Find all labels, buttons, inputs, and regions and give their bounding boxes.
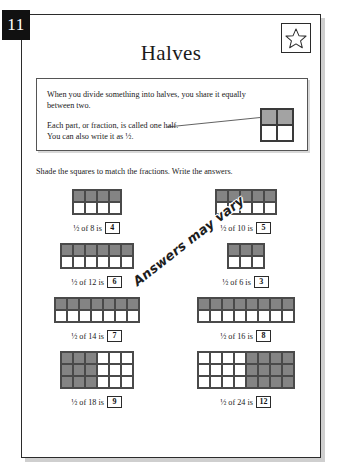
grid-cell[interactable] — [252, 190, 264, 202]
grid-cell[interactable] — [246, 298, 258, 310]
grid-cell[interactable] — [240, 244, 252, 256]
grid-cell[interactable] — [258, 376, 270, 388]
grid-cell[interactable] — [258, 352, 270, 364]
grid-cell[interactable] — [61, 352, 73, 364]
grid-cell[interactable] — [234, 298, 246, 310]
grid-cell[interactable] — [127, 310, 139, 322]
grid-cell[interactable] — [121, 244, 133, 256]
grid-cell[interactable] — [246, 364, 258, 376]
grid-cell[interactable] — [234, 310, 246, 322]
grid-cell[interactable] — [91, 310, 103, 322]
grid-cell[interactable] — [85, 376, 97, 388]
grid-cell[interactable] — [252, 202, 264, 214]
grid-cell[interactable] — [103, 298, 115, 310]
grid-cell[interactable] — [97, 202, 109, 214]
grid-cell[interactable] — [246, 352, 258, 364]
grid-cell[interactable] — [115, 298, 127, 310]
grid-cell[interactable] — [121, 352, 133, 364]
grid-cell[interactable] — [73, 376, 85, 388]
grid-cell[interactable] — [55, 298, 67, 310]
grid-cell[interactable] — [282, 310, 294, 322]
grid-cell[interactable] — [109, 202, 121, 214]
grid-cell[interactable] — [67, 298, 79, 310]
grid-cell[interactable] — [252, 244, 264, 256]
grid-cell[interactable] — [109, 244, 121, 256]
grid-cell[interactable] — [234, 352, 246, 364]
grid-cell[interactable] — [97, 190, 109, 202]
grid-cell[interactable] — [73, 352, 85, 364]
grid-cell[interactable] — [270, 298, 282, 310]
grid-cell[interactable] — [73, 256, 85, 268]
grid-cell[interactable] — [109, 256, 121, 268]
grid-cell[interactable] — [121, 256, 133, 268]
grid-cell[interactable] — [109, 190, 121, 202]
grid-cell[interactable] — [210, 352, 222, 364]
grid-cell[interactable] — [61, 376, 73, 388]
grid-cell[interactable] — [270, 376, 282, 388]
grid-cell[interactable] — [264, 190, 276, 202]
grid-cell[interactable] — [61, 364, 73, 376]
grid-cell[interactable] — [240, 256, 252, 268]
grid-cell[interactable] — [198, 298, 210, 310]
answer-box[interactable]: 7 — [107, 330, 122, 342]
grid-cell[interactable] — [85, 190, 97, 202]
shading-grid[interactable] — [197, 297, 295, 323]
grid-cell[interactable] — [103, 310, 115, 322]
shading-grid[interactable] — [72, 189, 122, 215]
grid-cell[interactable] — [91, 298, 103, 310]
grid-cell[interactable] — [67, 310, 79, 322]
answer-box[interactable]: 3 — [254, 276, 269, 288]
grid-cell[interactable] — [258, 310, 270, 322]
grid-cell[interactable] — [55, 310, 67, 322]
shading-grid[interactable] — [197, 351, 295, 389]
grid-cell[interactable] — [115, 310, 127, 322]
answer-box[interactable]: 4 — [105, 222, 120, 234]
grid-cell[interactable] — [270, 310, 282, 322]
grid-cell[interactable] — [246, 376, 258, 388]
grid-cell[interactable] — [222, 298, 234, 310]
grid-cell[interactable] — [282, 376, 294, 388]
grid-cell[interactable] — [79, 298, 91, 310]
shading-grid[interactable] — [54, 297, 140, 323]
grid-cell[interactable] — [198, 364, 210, 376]
grid-cell[interactable] — [97, 244, 109, 256]
grid-cell[interactable] — [282, 298, 294, 310]
grid-cell[interactable] — [222, 310, 234, 322]
grid-cell[interactable] — [109, 364, 121, 376]
grid-cell[interactable] — [222, 364, 234, 376]
grid-cell[interactable] — [73, 244, 85, 256]
grid-cell[interactable] — [270, 352, 282, 364]
grid-cell[interactable] — [282, 364, 294, 376]
shading-grid[interactable] — [60, 243, 134, 269]
grid-cell[interactable] — [121, 376, 133, 388]
grid-cell[interactable] — [210, 310, 222, 322]
grid-cell[interactable] — [198, 352, 210, 364]
grid-cell[interactable] — [228, 244, 240, 256]
grid-cell[interactable] — [264, 202, 276, 214]
grid-cell[interactable] — [282, 352, 294, 364]
grid-cell[interactable] — [210, 376, 222, 388]
grid-cell[interactable] — [97, 256, 109, 268]
shading-grid[interactable] — [60, 351, 134, 389]
grid-cell[interactable] — [234, 376, 246, 388]
grid-cell[interactable] — [252, 256, 264, 268]
grid-cell[interactable] — [73, 202, 85, 214]
grid-cell[interactable] — [97, 352, 109, 364]
grid-cell[interactable] — [85, 256, 97, 268]
grid-cell[interactable] — [97, 376, 109, 388]
answer-box[interactable]: 6 — [107, 276, 122, 288]
grid-cell[interactable] — [61, 256, 73, 268]
answer-box[interactable]: 5 — [256, 222, 271, 234]
answer-box[interactable]: 12 — [256, 396, 271, 408]
grid-cell[interactable] — [258, 298, 270, 310]
grid-cell[interactable] — [234, 364, 246, 376]
grid-cell[interactable] — [127, 298, 139, 310]
grid-cell[interactable] — [198, 310, 210, 322]
grid-cell[interactable] — [210, 298, 222, 310]
grid-cell[interactable] — [216, 190, 228, 202]
answer-box[interactable]: 9 — [107, 396, 122, 408]
grid-cell[interactable] — [258, 364, 270, 376]
grid-cell[interactable] — [246, 310, 258, 322]
grid-cell[interactable] — [85, 202, 97, 214]
grid-cell[interactable] — [73, 190, 85, 202]
